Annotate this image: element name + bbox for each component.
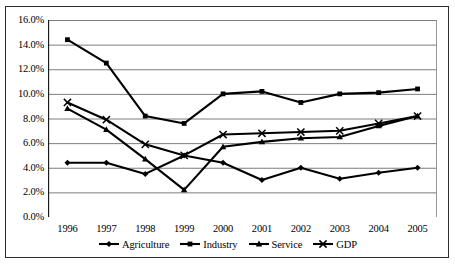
- legend-marker-diamond-icon: [98, 239, 120, 249]
- series-line: [67, 40, 417, 124]
- legend-item-service[interactable]: Service: [248, 238, 303, 250]
- legend-item-agriculture[interactable]: Agriculture: [98, 238, 169, 250]
- series-line: [67, 155, 417, 180]
- data-point-marker: [220, 160, 226, 166]
- y-tick-label: 2.0%: [2, 187, 44, 198]
- x-tick-label: 2005: [396, 224, 440, 235]
- y-tick-label: 10.0%: [2, 89, 44, 100]
- chart-legend: AgricultureIndustryServiceGDP: [0, 237, 455, 250]
- x-tick-label: 1996: [45, 224, 89, 235]
- series-line: [67, 109, 417, 190]
- data-point-marker: [221, 91, 226, 96]
- data-point-marker: [298, 100, 303, 105]
- legend-label: Industry: [203, 239, 237, 250]
- series-industry: [65, 37, 420, 126]
- x-tick-label: 2001: [240, 224, 284, 235]
- data-point-marker: [298, 165, 304, 171]
- x-tick-label: 1998: [123, 224, 167, 235]
- legend-label: Agriculture: [122, 239, 169, 250]
- plot-area: [48, 20, 437, 217]
- data-point-marker: [106, 241, 112, 247]
- data-point-marker: [64, 160, 70, 166]
- legend-item-gdp[interactable]: GDP: [312, 238, 357, 250]
- y-tick-label: 4.0%: [2, 163, 44, 174]
- legend-label: GDP: [336, 239, 357, 250]
- y-tick-label: 0.0%: [2, 212, 44, 223]
- data-point-marker: [259, 177, 265, 183]
- legend-item-industry[interactable]: Industry: [179, 238, 237, 250]
- y-tick-label: 8.0%: [2, 114, 44, 125]
- data-point-marker: [65, 37, 70, 42]
- data-point-marker: [415, 87, 420, 92]
- y-tick-label: 12.0%: [2, 64, 44, 75]
- data-point-marker: [260, 89, 265, 94]
- data-point-marker: [182, 121, 187, 126]
- data-point-marker: [415, 165, 421, 171]
- series-service: [64, 105, 421, 192]
- x-tick-label: 2000: [201, 224, 245, 235]
- data-point-marker: [337, 176, 343, 182]
- line-chart: [48, 20, 437, 217]
- data-point-marker: [376, 90, 381, 95]
- data-point-marker: [337, 91, 342, 96]
- data-point-marker: [64, 105, 70, 111]
- y-tick-label: 16.0%: [2, 15, 44, 26]
- x-tick-label: 2003: [318, 224, 362, 235]
- data-point-marker: [104, 61, 109, 66]
- data-point-marker: [188, 242, 193, 247]
- y-tick-label: 14.0%: [2, 40, 44, 51]
- x-tick-label: 1999: [162, 224, 206, 235]
- legend-label: Service: [272, 239, 303, 250]
- data-point-marker: [143, 114, 148, 119]
- data-point-marker: [376, 170, 382, 176]
- data-point-marker: [103, 160, 109, 166]
- x-tick-label: 1997: [84, 224, 128, 235]
- chart-figure: 0.0%2.0%4.0%6.0%8.0%10.0%12.0%14.0%16.0%…: [0, 0, 455, 269]
- legend-marker-square-icon: [179, 239, 201, 249]
- legend-marker-triangle-icon: [248, 239, 270, 249]
- series-agriculture: [64, 152, 420, 183]
- x-tick-label: 2002: [279, 224, 323, 235]
- y-tick-label: 6.0%: [2, 138, 44, 149]
- legend-marker-cross-icon: [312, 239, 334, 249]
- x-tick-label: 2004: [357, 224, 401, 235]
